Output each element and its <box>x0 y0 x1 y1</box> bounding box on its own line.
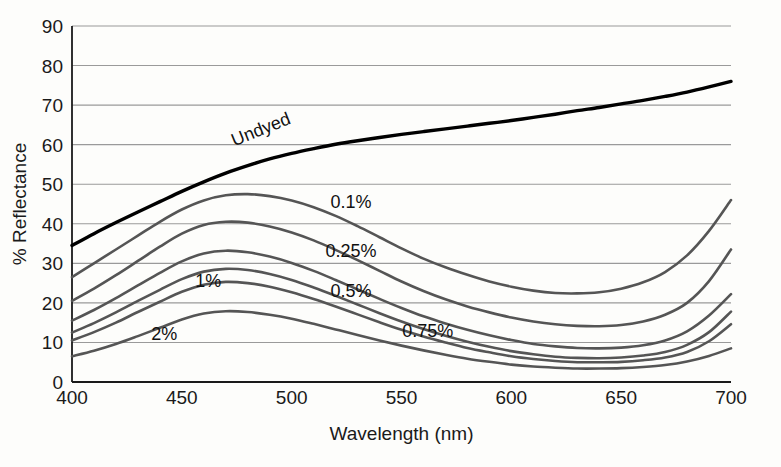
y-tick-label-80: 80 <box>42 56 63 77</box>
curve-undyed <box>72 81 731 245</box>
curve-025 <box>72 222 731 327</box>
x-tick-label-400: 400 <box>56 387 88 408</box>
curve-01 <box>72 194 731 293</box>
series-label-05: 0.5% <box>330 281 371 301</box>
x-tick-label-450: 450 <box>166 387 198 408</box>
y-axis-title: % Reflectance <box>9 143 30 266</box>
y-tick-label-20: 20 <box>42 293 63 314</box>
x-axis-tick-labels: 400450500550600650700 <box>56 387 747 408</box>
series-label-undyed: Undyed <box>228 108 293 150</box>
reflectance-chart-figure: 0102030405060708090 40045050055060065070… <box>0 0 781 467</box>
x-tick-label-700: 700 <box>715 387 747 408</box>
y-tick-label-50: 50 <box>42 174 63 195</box>
gridlines <box>72 26 731 342</box>
y-tick-label-40: 40 <box>42 214 63 235</box>
x-tick-label-550: 550 <box>386 387 418 408</box>
series-label-075: 0.75% <box>402 321 453 341</box>
series-label-1: 1% <box>195 271 221 291</box>
x-tick-label-650: 650 <box>605 387 637 408</box>
y-tick-label-10: 10 <box>42 332 63 353</box>
y-axis-tick-labels: 0102030405060708090 <box>42 16 63 393</box>
x-tick-label-600: 600 <box>495 387 527 408</box>
y-tick-label-90: 90 <box>42 16 63 37</box>
series-label-2: 2% <box>151 324 177 344</box>
y-tick-label-30: 30 <box>42 253 63 274</box>
series-label-025: 0.25% <box>325 241 376 261</box>
y-tick-label-60: 60 <box>42 135 63 156</box>
y-tick-label-70: 70 <box>42 95 63 116</box>
x-axis-title: Wavelength (nm) <box>330 423 474 444</box>
x-tick-label-500: 500 <box>276 387 308 408</box>
chart-canvas: 0102030405060708090 40045050055060065070… <box>0 0 781 467</box>
series-label-01: 0.1% <box>330 192 371 212</box>
